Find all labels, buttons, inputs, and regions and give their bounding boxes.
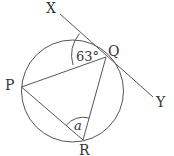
label-r: R bbox=[79, 142, 90, 156]
label-x: X bbox=[46, 0, 56, 16]
tangent-line-xy bbox=[60, 14, 153, 97]
chord-qr bbox=[83, 57, 106, 140]
diagram-svg: X Q Y P R 63° a bbox=[0, 0, 174, 156]
angle-label-63: 63° bbox=[76, 49, 99, 64]
angle-label-a: a bbox=[74, 118, 82, 133]
label-p: P bbox=[5, 77, 14, 93]
geometry-diagram: X Q Y P R 63° a bbox=[0, 0, 174, 156]
label-y: Y bbox=[155, 94, 166, 110]
label-q: Q bbox=[108, 43, 119, 59]
